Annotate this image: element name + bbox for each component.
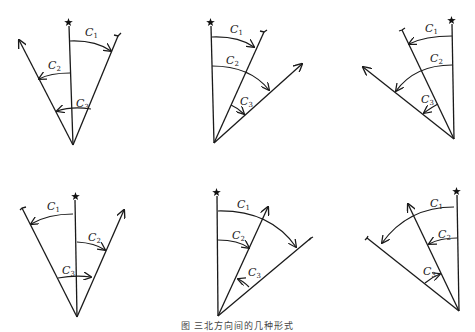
star-icon — [447, 16, 456, 24]
diagram-3: C1 C2 C3 — [363, 16, 456, 139]
fork-icon — [365, 236, 368, 240]
star-icon — [452, 187, 461, 195]
svg-text:C2: C2 — [226, 54, 239, 68]
star-icon — [212, 188, 221, 196]
diagram-5: C1 C2 C3 — [212, 188, 313, 316]
svg-text:C3: C3 — [76, 97, 89, 111]
svg-text:C1: C1 — [230, 23, 243, 37]
svg-text:C2: C2 — [438, 228, 451, 242]
fork-icon — [309, 237, 313, 240]
svg-text:C1: C1 — [47, 200, 60, 214]
arc-c1 — [70, 41, 111, 51]
grid-north-line — [214, 32, 264, 143]
grid-north-line — [73, 36, 118, 145]
arc-c2 — [396, 65, 452, 91]
grid-north-line — [402, 30, 454, 139]
true-north-line — [211, 26, 214, 143]
diagram-2: C1 C2 C3 — [206, 18, 302, 143]
true-north-line — [69, 26, 73, 145]
true-north-line — [217, 196, 218, 316]
arc-c1 — [31, 214, 73, 224]
svg-text:C1: C1 — [237, 198, 250, 212]
magnetic-north-line — [77, 210, 124, 317]
true-north-line — [75, 200, 77, 317]
svg-text:C1: C1 — [85, 26, 98, 40]
svg-text:C2: C2 — [88, 231, 101, 245]
magnetic-north-line — [19, 40, 73, 145]
svg-text:C3: C3 — [240, 95, 253, 109]
magnetic-north-line — [408, 204, 459, 311]
svg-text:C2: C2 — [48, 59, 61, 73]
svg-text:C2: C2 — [430, 52, 443, 66]
arc-c2 — [212, 66, 269, 90]
svg-text:C3: C3 — [423, 265, 436, 279]
diagram-6: C1 C2 C3 — [365, 187, 461, 311]
diagram-1: C1 C2 C3 — [19, 18, 121, 145]
fork-icon — [260, 30, 267, 32]
arc-c1 — [212, 37, 254, 47]
grid-north-line — [22, 208, 77, 317]
star-icon — [71, 192, 80, 200]
svg-text:C2: C2 — [232, 229, 245, 243]
star-icon — [206, 18, 215, 26]
true-north-line — [457, 195, 459, 311]
svg-text:C1: C1 — [425, 22, 438, 36]
figure-caption: 图 三北方向间的几种形式 — [0, 319, 475, 332]
diagram-4: C1 C2 C3 — [20, 192, 124, 317]
fork-icon — [399, 28, 405, 31]
arc-c1 — [409, 36, 452, 44]
magnetic-north-line — [214, 64, 302, 143]
true-north-line — [452, 24, 454, 139]
north-directions-figure: C1 C2 C3 C1 C2 C3 C1 C2 C3 — [0, 0, 475, 332]
fork-icon — [114, 33, 121, 36]
arc-c2 — [39, 73, 70, 79]
svg-text:C1: C1 — [430, 197, 443, 211]
grid-north-line — [218, 238, 311, 316]
magnetic-north-line — [218, 207, 268, 316]
svg-text:C3: C3 — [421, 93, 434, 107]
svg-text:C3: C3 — [248, 266, 261, 280]
star-icon — [64, 18, 73, 26]
arc-c3 — [238, 279, 249, 287]
arc-c1 — [218, 211, 296, 247]
grid-north-line — [367, 238, 459, 311]
svg-text:C3: C3 — [62, 264, 75, 278]
